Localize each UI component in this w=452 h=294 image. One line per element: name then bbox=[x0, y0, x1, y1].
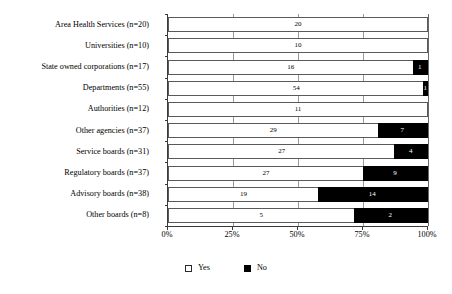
bar-value-label-no: 9 bbox=[393, 170, 397, 177]
bar-row: 11 bbox=[168, 99, 428, 120]
stacked-bar: 297 bbox=[168, 123, 428, 138]
bar-segment-no: 2 bbox=[354, 208, 428, 223]
bar-row: 297 bbox=[168, 120, 428, 141]
stacked-bar: 279 bbox=[168, 166, 428, 181]
bar-segment-yes: 16 bbox=[168, 60, 413, 75]
category-label: Departments (n=55) bbox=[0, 78, 155, 99]
bar-segment-yes: 29 bbox=[168, 123, 378, 138]
bar-value-label-yes: 27 bbox=[263, 170, 270, 177]
bar-segment-yes: 11 bbox=[168, 102, 428, 117]
category-label: State owned corporations (n=17) bbox=[0, 56, 155, 77]
bar-row: 20 bbox=[168, 14, 428, 35]
x-axis-tick-label: 50% bbox=[289, 231, 304, 239]
bar-segment-yes: 54 bbox=[168, 81, 423, 96]
bar-value-label-yes: 19 bbox=[240, 191, 247, 198]
legend-item[interactable]: Yes bbox=[185, 264, 210, 272]
bar-segment-yes: 19 bbox=[168, 187, 318, 202]
bar-segment-yes: 5 bbox=[168, 208, 354, 223]
category-label: Authorities (n=12) bbox=[0, 99, 155, 120]
bar-segment-no: 4 bbox=[394, 144, 428, 159]
bar-value-label-yes: 10 bbox=[295, 42, 302, 49]
bar-row: 52 bbox=[168, 205, 428, 226]
stacked-bar: 52 bbox=[168, 208, 428, 223]
stacked-bar: 161 bbox=[168, 60, 428, 75]
bar-value-label-yes: 11 bbox=[295, 106, 302, 113]
gridline bbox=[428, 14, 429, 226]
x-axis-tick-label: 25% bbox=[224, 231, 239, 239]
bar-value-label-no: 1 bbox=[418, 64, 422, 71]
bar-series-group: 201016154111297274279191452 bbox=[168, 14, 428, 226]
bar-value-label-yes: 54 bbox=[293, 85, 300, 92]
bar-segment-no: 1 bbox=[423, 81, 428, 96]
bar-value-label-yes: 20 bbox=[295, 21, 302, 28]
bar-row: 1914 bbox=[168, 184, 428, 205]
x-axis-tick-labels: 0%25%50%75%100% bbox=[0, 231, 452, 245]
category-label: Universities (n=10) bbox=[0, 35, 155, 56]
bar-value-label-no: 14 bbox=[369, 191, 376, 198]
x-axis-tick-label: 0% bbox=[162, 231, 173, 239]
bar-segment-no: 14 bbox=[318, 187, 428, 202]
stacked-bar: 274 bbox=[168, 144, 428, 159]
bar-value-label-no: 4 bbox=[409, 148, 413, 155]
category-label: Regulatory boards (n=37) bbox=[0, 162, 155, 183]
bar-value-label-no: 2 bbox=[389, 212, 393, 219]
bar-value-label-no: 1 bbox=[423, 85, 427, 92]
x-axis-tick-label: 100% bbox=[417, 231, 436, 239]
stacked-bar-chart: Area Health Services (n=20)Universities … bbox=[0, 0, 452, 294]
legend-label: No bbox=[257, 264, 267, 272]
filled-square-icon bbox=[244, 265, 251, 272]
category-label: Other agencies (n=37) bbox=[0, 120, 155, 141]
bar-row: 161 bbox=[168, 56, 428, 77]
stacked-bar: 11 bbox=[168, 102, 428, 117]
stacked-bar: 541 bbox=[168, 81, 428, 96]
bar-segment-yes: 27 bbox=[168, 144, 394, 159]
bar-row: 274 bbox=[168, 141, 428, 162]
stacked-bar: 1914 bbox=[168, 187, 428, 202]
bar-segment-yes: 10 bbox=[168, 38, 428, 53]
bar-value-label-yes: 16 bbox=[287, 64, 294, 71]
bar-row: 279 bbox=[168, 162, 428, 183]
category-label: Area Health Services (n=20) bbox=[0, 14, 155, 35]
category-label: Advisory boards (n=38) bbox=[0, 184, 155, 205]
category-label: Other boards (n=8) bbox=[0, 205, 155, 226]
bar-segment-yes: 27 bbox=[168, 166, 363, 181]
bar-value-label-yes: 27 bbox=[278, 148, 285, 155]
bar-segment-no: 7 bbox=[378, 123, 428, 138]
bar-segment-no: 1 bbox=[413, 60, 428, 75]
bar-row: 10 bbox=[168, 35, 428, 56]
category-axis-labels: Area Health Services (n=20)Universities … bbox=[0, 14, 155, 226]
bar-value-label-yes: 5 bbox=[260, 212, 264, 219]
plot-area: 201016154111297274279191452 bbox=[167, 14, 428, 226]
bar-segment-yes: 20 bbox=[168, 17, 428, 32]
bar-value-label-no: 7 bbox=[401, 127, 405, 134]
legend-item[interactable]: No bbox=[244, 264, 267, 272]
legend-label: Yes bbox=[198, 264, 210, 272]
x-axis-tick-label: 75% bbox=[354, 231, 369, 239]
bar-segment-no: 9 bbox=[363, 166, 428, 181]
stacked-bar: 20 bbox=[168, 17, 428, 32]
chart-legend: YesNo bbox=[0, 264, 452, 272]
open-square-icon bbox=[185, 265, 192, 272]
bar-row: 541 bbox=[168, 78, 428, 99]
bar-value-label-yes: 29 bbox=[270, 127, 277, 134]
stacked-bar: 10 bbox=[168, 38, 428, 53]
category-label: Service boards (n=31) bbox=[0, 141, 155, 162]
